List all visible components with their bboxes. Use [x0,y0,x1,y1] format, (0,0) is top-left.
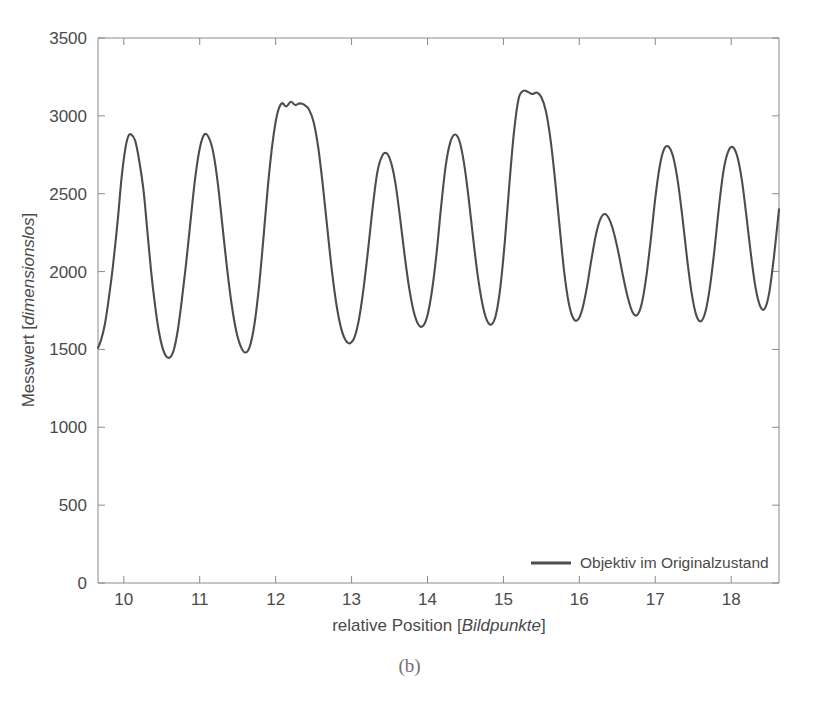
series-group [98,90,779,357]
y-tick-label: 500 [59,496,87,515]
legend-label: Objektiv im Originalzustand [580,554,769,571]
y-tick-label: 2500 [49,185,87,204]
x-tick-label: 16 [570,590,589,609]
figure-container: 0500100015002000250030003500 10111213141… [0,0,819,702]
x-axis: 101112131415161718 [114,38,740,609]
x-tick-label: 14 [418,590,437,609]
x-tick-label: 11 [191,590,209,609]
x-tick-label: 18 [722,590,741,609]
x-tick-label: 15 [494,590,513,609]
figure-caption: (b) [0,655,819,677]
y-tick-label: 3500 [49,29,87,48]
y-tick-label: 0 [78,574,87,593]
x-axis-title: relative Position [Bildpunkte] [332,616,546,635]
y-tick-label: 3000 [49,107,87,126]
chart-legend: Objektiv im Originalzustand [531,554,769,571]
y-tick-label: 1500 [49,340,87,359]
x-tick-label: 13 [342,590,361,609]
line-chart: 0500100015002000250030003500 10111213141… [0,0,819,702]
y-tick-label: 1000 [49,418,87,437]
plot-frame [98,38,779,583]
x-tick-label: 10 [114,590,133,609]
y-axis-title: Messwert [dimensionslos] [19,213,38,408]
y-tick-label: 2000 [49,263,87,282]
x-tick-label: 12 [266,590,285,609]
data-line-objektiv-im-originalzustand [98,90,779,357]
x-tick-label: 17 [646,590,665,609]
